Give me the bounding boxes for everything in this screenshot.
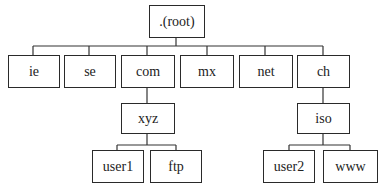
node-root: .(root) — [149, 5, 205, 38]
node-mx: mx — [180, 55, 234, 88]
node-user2: user2 — [263, 150, 315, 183]
node-com: com — [121, 55, 175, 88]
node-net: net — [239, 55, 293, 88]
node-user1: user1 — [92, 150, 144, 183]
node-ftp: ftp — [150, 150, 202, 183]
node-www: www — [323, 150, 378, 183]
node-se: se — [64, 55, 116, 88]
node-ie: ie — [8, 55, 60, 88]
node-iso: iso — [297, 103, 350, 134]
node-ch: ch — [297, 55, 350, 88]
node-xyz: xyz — [121, 103, 175, 134]
